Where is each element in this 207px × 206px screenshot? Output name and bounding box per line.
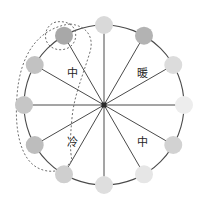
node-2[interactable]	[164, 56, 182, 74]
color-temperature-wheel: 中 暖 冷 中	[0, 0, 207, 206]
label-upper-right: 暖	[137, 67, 148, 80]
node-3[interactable]	[175, 96, 193, 114]
node-6[interactable]	[95, 176, 113, 194]
diagram-canvas: 中 暖 冷 中	[0, 0, 207, 206]
node-9[interactable]	[15, 96, 33, 114]
label-lower-left: 冷	[67, 136, 78, 149]
node-12[interactable]	[95, 16, 113, 34]
label-upper-left: 中	[67, 67, 78, 80]
node-1[interactable]	[135, 27, 153, 45]
node-7[interactable]	[55, 165, 73, 183]
node-8[interactable]	[26, 136, 44, 154]
node-10[interactable]	[26, 56, 44, 74]
label-lower-right: 中	[137, 136, 148, 149]
node-5[interactable]	[135, 165, 153, 183]
wheel-center-hub	[102, 103, 107, 108]
node-4[interactable]	[164, 136, 182, 154]
node-11[interactable]	[55, 27, 73, 45]
